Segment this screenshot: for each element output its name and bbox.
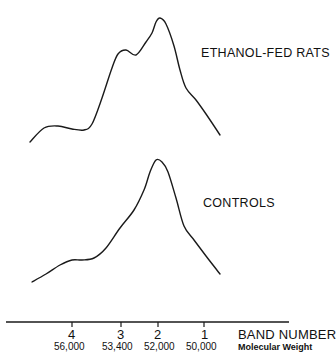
series-label-controls: CONTROLS [203,196,275,210]
band-label-2: 2 [154,327,161,342]
band-label-4: 4 [68,327,75,342]
band-label-3: 3 [117,327,124,342]
x-axis-subtitle: Molecular Weight [238,342,312,352]
controls-trace [32,159,220,282]
mw-label-53400: 53,400 [102,341,133,352]
band-label-1: 1 [201,327,208,342]
mw-label-52000: 52,000 [144,341,175,352]
ethanol-fed-trace [30,18,220,142]
x-axis-title: BAND NUMBER [238,327,336,342]
mw-label-50000: 50,000 [186,341,217,352]
series-label-ethanol: ETHANOL-FED RATS [201,46,330,60]
mw-label-56000: 56,000 [54,341,85,352]
